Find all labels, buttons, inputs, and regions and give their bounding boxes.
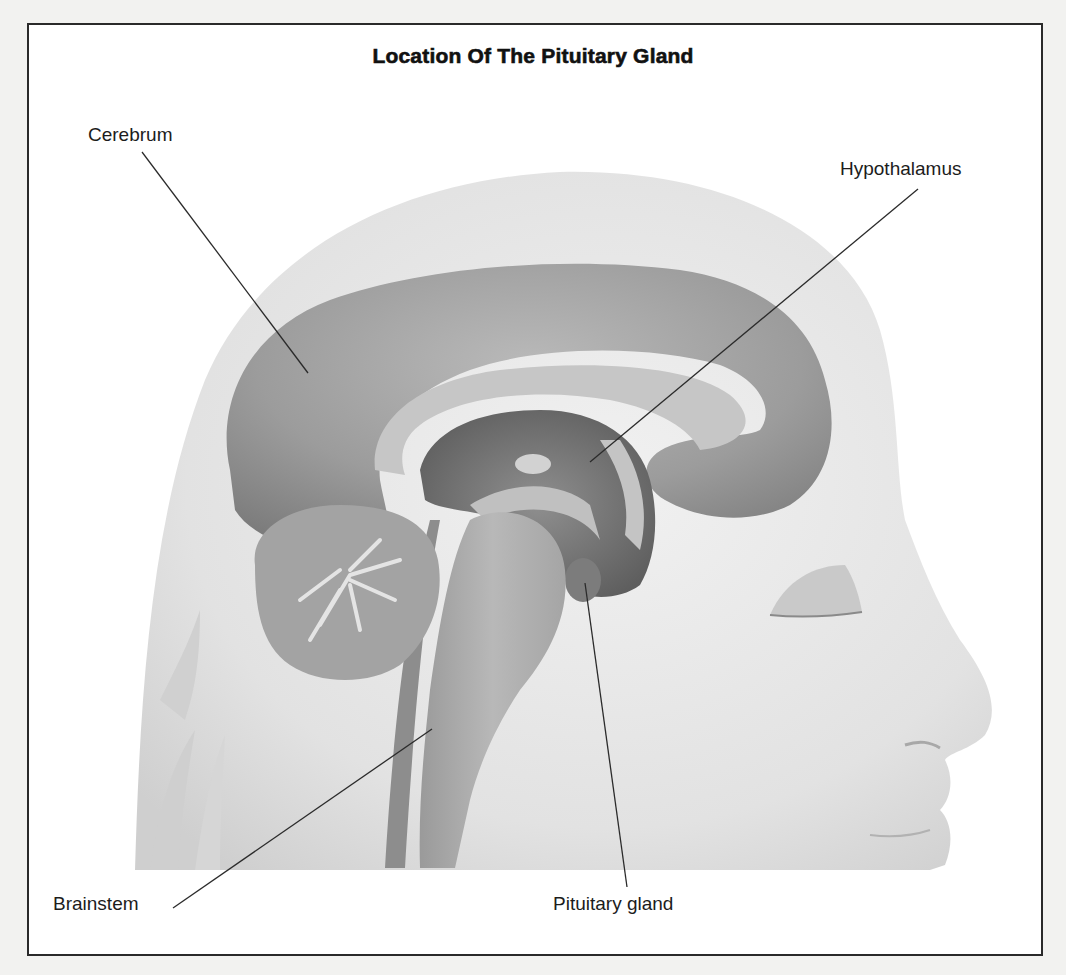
head-sagittal-illustration — [0, 0, 1066, 975]
leader-line-cerebrum — [142, 152, 308, 373]
label-pituitary-gland: Pituitary gland — [553, 893, 673, 915]
pituitary-gland-shape — [565, 558, 601, 602]
diagram-page: Location Of The Pituitary Gland — [0, 0, 1066, 975]
label-brainstem: Brainstem — [53, 893, 139, 915]
label-hypothalamus: Hypothalamus — [840, 158, 961, 180]
label-cerebrum: Cerebrum — [88, 124, 172, 146]
